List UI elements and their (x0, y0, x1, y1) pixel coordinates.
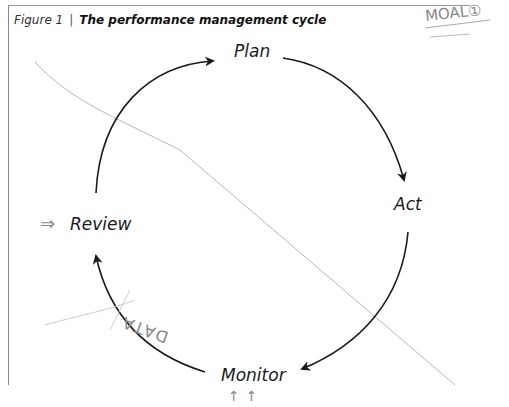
stage-act: Act (394, 194, 422, 214)
handwritten-arrows-monitor: ↑↑ (228, 388, 263, 404)
arrow-review-to-plan (96, 61, 213, 193)
cycle-diagram (0, 0, 509, 407)
handwritten-arrow-review: ⇒ (40, 213, 55, 234)
stage-monitor: Monitor (221, 365, 286, 385)
stage-plan: Plan (234, 41, 270, 61)
arrow-monitor-to-review (96, 256, 205, 372)
arrow-act-to-monitor (302, 232, 408, 369)
arrow-plan-to-act (283, 58, 404, 180)
stage-review: Review (70, 214, 131, 234)
